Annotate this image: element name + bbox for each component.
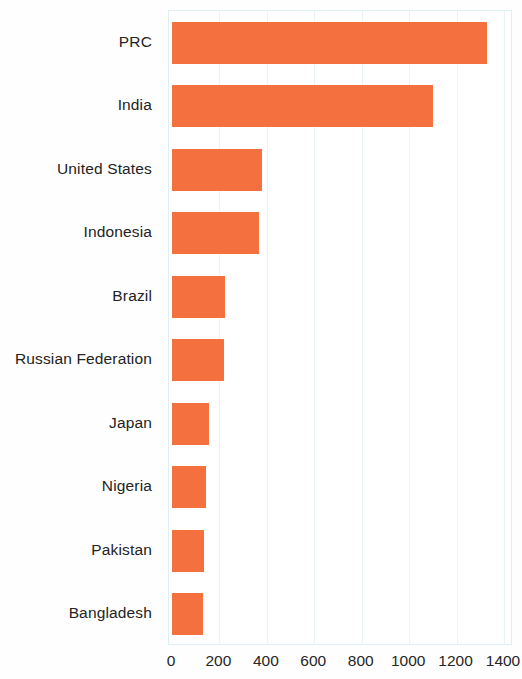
category-axis-label: United States xyxy=(0,161,152,177)
bar xyxy=(172,22,487,64)
category-axis-label: Russian Federation xyxy=(0,351,152,367)
value-axis-tick-label: 600 xyxy=(300,653,326,669)
value-axis-tick-label: 800 xyxy=(348,653,374,669)
value-axis: 0200400600800100012001400 xyxy=(0,648,522,679)
category-axis-label: Japan xyxy=(0,415,152,431)
bar xyxy=(172,466,206,508)
bar xyxy=(172,593,203,635)
bar xyxy=(172,149,262,191)
value-axis-tick-label: 1400 xyxy=(486,653,520,669)
gridline xyxy=(457,11,458,644)
bar xyxy=(172,530,204,572)
category-axis-label: Pakistan xyxy=(0,542,152,558)
category-axis-label: Brazil xyxy=(0,288,152,304)
value-axis-tick-label: 400 xyxy=(253,653,279,669)
category-axis-label: Nigeria xyxy=(0,478,152,494)
category-axis-label: PRC xyxy=(0,34,152,50)
category-axis-label: Bangladesh xyxy=(0,605,152,621)
category-axis: PRCIndiaUnited StatesIndonesiaBrazilRuss… xyxy=(0,10,160,645)
category-axis-label: India xyxy=(0,97,152,113)
bar-chart-figure: PRCIndiaUnited StatesIndonesiaBrazilRuss… xyxy=(0,0,522,679)
bar xyxy=(172,85,433,127)
value-axis-tick-label: 200 xyxy=(205,653,231,669)
plot-area xyxy=(168,10,512,645)
bar xyxy=(172,276,225,318)
bar xyxy=(172,403,209,445)
value-axis-tick-label: 0 xyxy=(167,653,176,669)
bar xyxy=(172,339,224,381)
category-axis-label: Indonesia xyxy=(0,224,152,240)
value-axis-tick-label: 1000 xyxy=(391,653,425,669)
gridline xyxy=(504,11,505,644)
value-axis-tick-label: 1200 xyxy=(438,653,472,669)
bar xyxy=(172,212,259,254)
